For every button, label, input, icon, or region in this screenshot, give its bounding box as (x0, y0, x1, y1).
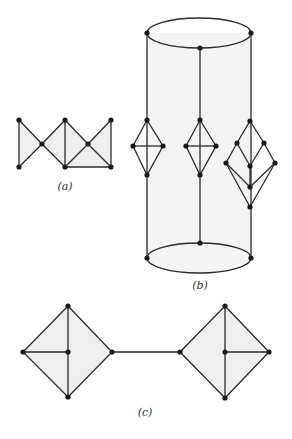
panel-c: (c) (20, 303, 271, 419)
graph-figure: (a) (0, 0, 292, 439)
label-a: (a) (57, 180, 72, 193)
label-c: (c) (138, 406, 153, 419)
label-b: (b) (192, 279, 208, 292)
panel-a: (a) (16, 117, 113, 193)
panel-b: (b) (130, 18, 277, 292)
